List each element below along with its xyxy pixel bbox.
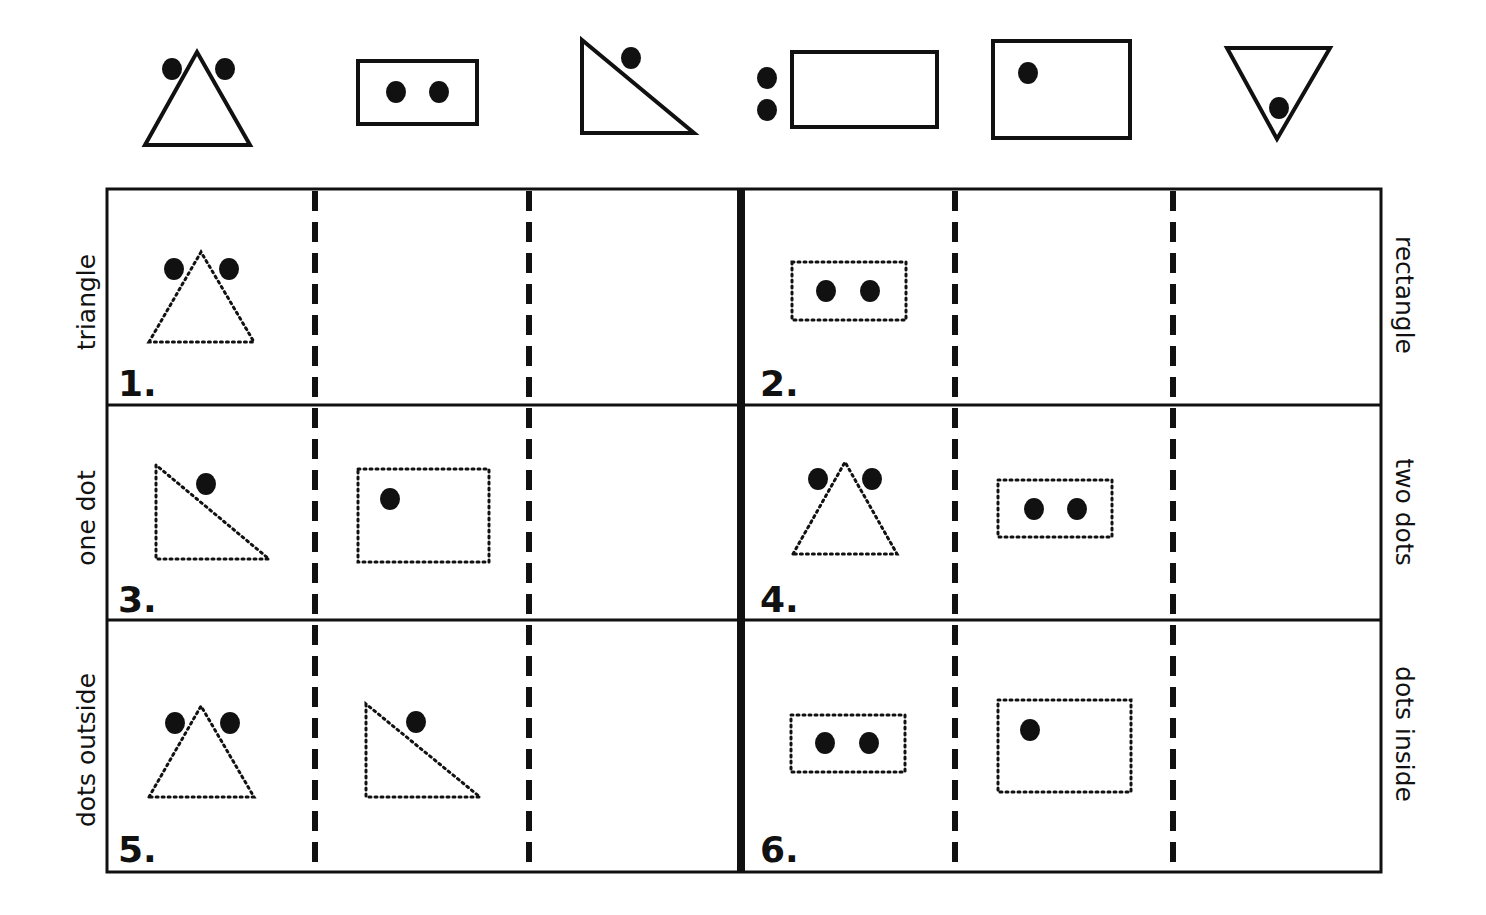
worksheet: triangle one dot dots outside rectangle … [0,0,1486,915]
dot-icon [220,712,240,734]
dot-icon [621,47,641,69]
dot-icon [859,732,879,754]
rectangle-icon [792,262,906,320]
puzzle-number-1: 1. [118,366,157,402]
puzzle-number-6: 6. [760,832,799,868]
dot-icon [219,258,239,280]
dot-icon [380,488,400,510]
sample-triangle-down-icon [1227,48,1330,139]
dot-icon [386,81,406,103]
rectangle-icon [791,715,905,772]
dot-icon [1024,498,1044,520]
dot-icon [215,58,235,80]
dot-icon [1018,62,1038,84]
row-label-right-2: two dots [1390,458,1419,565]
dot-icon [757,99,777,121]
dot-icon [862,468,882,490]
dot-icon [1269,97,1289,119]
dot-icon [808,468,828,490]
puzzle-number-3: 3. [118,582,157,618]
dot-icon [1067,498,1087,520]
dot-icon [816,280,836,302]
dot-icon [1020,719,1040,741]
row-label-left-2: one dot [72,470,101,565]
row-label-left-3: dots outside [72,673,101,827]
row-label-right-1: rectangle [1390,236,1419,354]
sample-rectangle-icon [792,52,937,127]
puzzle-number-4: 4. [760,582,799,618]
row-label-left-1: triangle [72,254,101,350]
dot-icon [196,473,216,495]
dot-icon [406,711,426,733]
puzzle-number-2: 2. [760,366,799,402]
dot-icon [162,58,182,80]
sample-rectangle-icon [993,41,1130,138]
dot-icon [757,67,777,89]
sample-rectangle-icon [358,61,477,124]
worksheet-canvas [0,0,1486,915]
puzzle-number-5: 5. [118,832,157,868]
dot-icon [164,258,184,280]
rectangle-icon [358,469,489,562]
rectangle-icon [998,700,1131,792]
dot-icon [165,712,185,734]
dot-icon [429,81,449,103]
dot-icon [815,732,835,754]
row-label-right-3: dots inside [1390,666,1419,802]
dot-icon [860,280,880,302]
rectangle-icon [998,480,1112,537]
